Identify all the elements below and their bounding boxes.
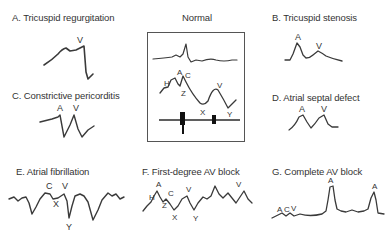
wave-label-a: A	[328, 176, 334, 185]
wave-label-a: A	[372, 182, 378, 191]
wave-label-a: A	[277, 205, 283, 214]
wave-label-v: V	[291, 204, 297, 213]
wave-label-c: C	[284, 205, 290, 214]
complete-av-block-waveform: A C V A A	[0, 0, 386, 237]
